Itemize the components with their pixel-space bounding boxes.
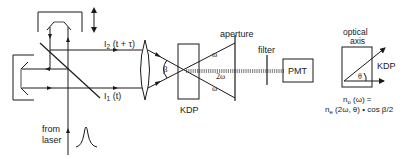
- label-filter: filter: [258, 45, 275, 55]
- formula-line-2: ne (2ω, θ) • cos β/2: [325, 105, 394, 115]
- label-laser: laser: [42, 135, 62, 145]
- label-kdp: KDP: [180, 105, 199, 115]
- label-2omega: 2ω: [216, 72, 225, 81]
- beam-lower-converging: [148, 43, 235, 88]
- label-i2: I2 (t + τ): [104, 39, 135, 50]
- pulse-shape-icon: [76, 127, 97, 147]
- left-retroreflector: [13, 55, 34, 100]
- inset-label-kdp: KDP: [377, 61, 396, 71]
- inset-label-axis: axis: [350, 36, 365, 46]
- top-retroreflector: [38, 12, 82, 32]
- inset-label-theta: θ: [358, 72, 362, 81]
- label-aperture: aperture: [220, 29, 254, 39]
- label-i1: I1 (t): [104, 91, 121, 102]
- label-omega-bottom: ω: [212, 84, 217, 93]
- focusing-lens: [141, 40, 150, 100]
- optical-setup-diagram: I2 (t + τ) I1 (t) from laser β KDP apert…: [0, 0, 409, 165]
- label-from: from: [42, 124, 60, 134]
- diagram-canvas: I2 (t + τ) I1 (t) from laser β KDP apert…: [0, 0, 409, 165]
- theta-angle-arc: [364, 73, 366, 81]
- label-beta: β: [163, 64, 168, 74]
- formula-line-1: no (ω) =: [343, 95, 372, 105]
- label-pmt: PMT: [288, 66, 308, 76]
- label-omega-top: ω: [212, 50, 217, 59]
- double-arrow-icon: [91, 7, 97, 33]
